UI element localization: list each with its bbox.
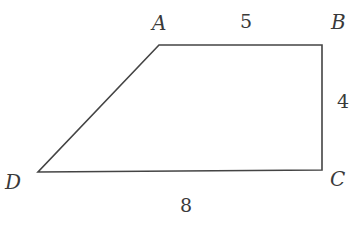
- edge-length-dc: 8: [180, 194, 192, 216]
- vertex-label-a: A: [150, 11, 166, 35]
- vertex-label-d: D: [4, 170, 21, 194]
- trapezoid-diagram: A B C D 5 4 8: [0, 0, 359, 240]
- edge-length-bc: 4: [337, 90, 349, 112]
- vertex-label-b: B: [330, 10, 346, 34]
- edge-length-ab: 5: [240, 10, 252, 32]
- vertex-label-c: C: [330, 167, 345, 191]
- trapezoid-shape: [38, 45, 322, 172]
